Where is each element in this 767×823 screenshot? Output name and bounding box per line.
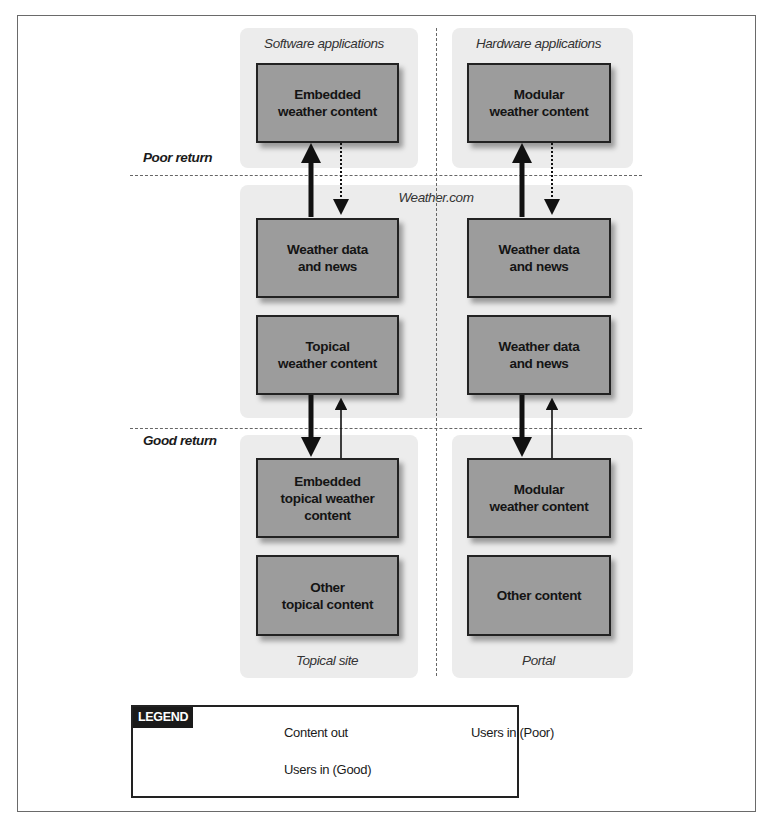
- legend: LEGEND: [131, 705, 519, 798]
- legend-label-content-out: Content out: [284, 725, 348, 740]
- legend-label-users-in-good: Users in (Good): [284, 762, 371, 777]
- legend-title: LEGEND: [133, 707, 193, 728]
- flow-arrows: [0, 0, 767, 823]
- legend-label-users-in-poor: Users in (Poor): [471, 725, 554, 740]
